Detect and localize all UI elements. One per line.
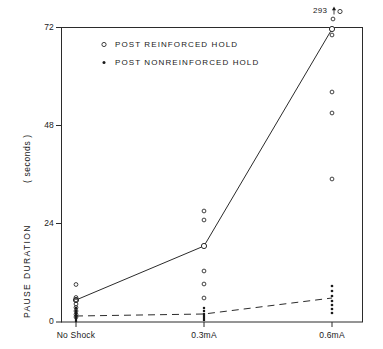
plot-canvas [0,0,383,349]
x-tick-label-03ma: 0.3mA [174,330,234,340]
points-nonreinforced-06ma [331,285,334,315]
y-tick-label-48: 48 [34,120,54,130]
y-tick-label-24: 24 [34,218,54,228]
y-tick-label-72: 72 [34,22,54,32]
points-reinforced-06ma [330,17,335,181]
x-axis-ticks [76,322,332,327]
y-axis-units: ( seconds ) [22,134,32,183]
series-post-nonreinforced-hold [75,285,334,323]
offscale-annotation-value: 293 [313,6,327,15]
mean-line-reinforced [76,29,332,300]
mean-markers-reinforced [73,26,334,302]
legend-label-post-reinforced-hold: POST REINFORCED HOLD [115,40,238,49]
plot-frame [62,28,363,323]
pause-duration-scatter-chart: 72 48 24 0 No Shock 0.3mA 0.6mA PAUSE DU… [0,0,383,349]
legend-open-circle-icon [102,42,106,46]
y-tick-label-0: 0 [34,316,54,326]
offscale-annotation-marker [332,7,342,15]
legend-markers [102,42,106,64]
points-nonreinforced-03ma [203,307,206,322]
legend-filled-dot-icon [103,61,106,64]
y-axis-title: PAUSE DURATION [22,224,32,318]
x-tick-label-no-shock: No Shock [36,330,116,340]
legend-label-post-nonreinforced-hold: POST NONREINFORCED HOLD [115,58,259,67]
points-reinforced-03ma [202,209,206,300]
x-tick-label-06ma: 0.6mA [302,330,362,340]
